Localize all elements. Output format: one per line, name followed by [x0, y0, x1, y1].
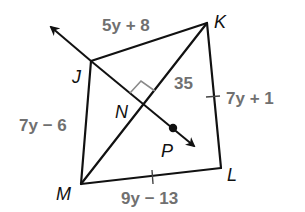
- vertex-label-p: P: [161, 141, 173, 161]
- geometry-diagram: J K L M N P 5y + 8 7y + 1 7y − 6 9y − 13…: [0, 0, 305, 212]
- side-label-ml: 9y − 13: [121, 189, 178, 208]
- tick-kl: [206, 96, 220, 97]
- vertex-label-n: N: [115, 102, 129, 122]
- right-angle-mark: [130, 81, 155, 93]
- side-label-jk: 5y + 8: [102, 16, 150, 35]
- side-lm: [81, 168, 221, 184]
- side-label-kl: 7y + 1: [226, 89, 274, 108]
- point-p: [169, 124, 177, 132]
- side-label-jm: 7y − 6: [19, 116, 67, 135]
- tick-ml: [152, 170, 153, 184]
- vertex-label-j: J: [71, 67, 82, 87]
- segment-label-nk: 35: [174, 74, 193, 93]
- vertex-label-k: K: [214, 12, 227, 32]
- vertex-label-l: L: [227, 165, 237, 185]
- side-mj: [81, 61, 91, 184]
- vertex-label-m: M: [56, 184, 71, 204]
- ray-jp: [51, 27, 91, 61]
